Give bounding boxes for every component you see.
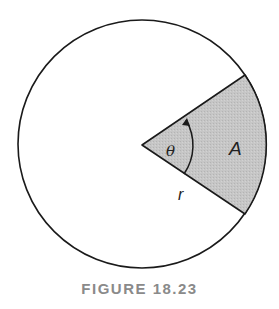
area-label: A (228, 138, 242, 159)
figure-caption: FIGURE 18.23 (0, 280, 279, 297)
shaded-sector (142, 75, 266, 214)
circle-sector-diagram: θ A r (0, 0, 279, 280)
sector-area-figure: θ A r FIGURE 18.23 (0, 0, 279, 309)
radius-label: r (178, 186, 184, 203)
theta-label: θ (166, 142, 175, 160)
